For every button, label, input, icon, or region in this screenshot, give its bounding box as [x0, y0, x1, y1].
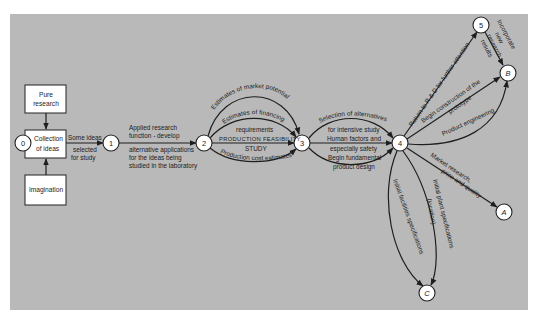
node-2: 2 [196, 135, 212, 151]
node-4: 4 [392, 135, 408, 151]
label-for-study: for study [71, 154, 96, 162]
label-product-design: product design [333, 163, 375, 171]
node-0: 0 [15, 135, 31, 151]
label-function-develop: function - develop [129, 132, 180, 140]
label-production-feasibility: PRODUCTION FEASIBILITY [219, 136, 301, 142]
label-requirements: requirements [236, 126, 273, 134]
node-5-label: 5 [479, 21, 483, 30]
label-some-ideas: Some ideas [68, 134, 102, 141]
imagination-label: Imagination [29, 186, 63, 194]
node-2-label: 2 [202, 139, 206, 148]
node-5: 5 [473, 17, 489, 33]
node-4-label: 4 [398, 139, 402, 148]
imagination-box: Imagination [25, 175, 66, 205]
pure-research-label-line1: Pure [39, 91, 53, 98]
label-applied-research: Applied research [129, 124, 177, 132]
label-selected: selected [73, 146, 97, 153]
collection-label-line2: of ideas [36, 145, 60, 152]
label-for-intensive-study: for intensive study [328, 126, 380, 134]
node-c-label: C [424, 289, 430, 298]
node-a: A [496, 204, 512, 220]
product-development-flow-diagram: Pure research Collection of ideas Imagin… [0, 0, 534, 320]
node-0-label: 0 [21, 139, 25, 148]
label-especially-safety: especially safety [330, 145, 378, 153]
label-begin-fundamental: Begin fundamental [328, 154, 381, 162]
pure-research-label-line2: research [33, 100, 59, 107]
label-human-factors: Human factors and [327, 135, 381, 142]
pure-research-box: Pure research [25, 85, 66, 113]
label-for-the-ideas-being: for the ideas being [129, 154, 182, 162]
node-c: C [419, 285, 435, 301]
node-1-label: 1 [109, 139, 113, 148]
node-a-label: A [500, 208, 506, 217]
node-b-label: B [505, 69, 510, 78]
node-b: B [500, 65, 516, 81]
label-alternative-applications: alternative applications [129, 146, 194, 154]
collection-label-line1: Collection [34, 135, 63, 142]
label-studied-in-laboratory: studied in the laboratory [129, 162, 198, 170]
label-study: STUDY [245, 145, 267, 152]
node-1: 1 [103, 135, 119, 151]
